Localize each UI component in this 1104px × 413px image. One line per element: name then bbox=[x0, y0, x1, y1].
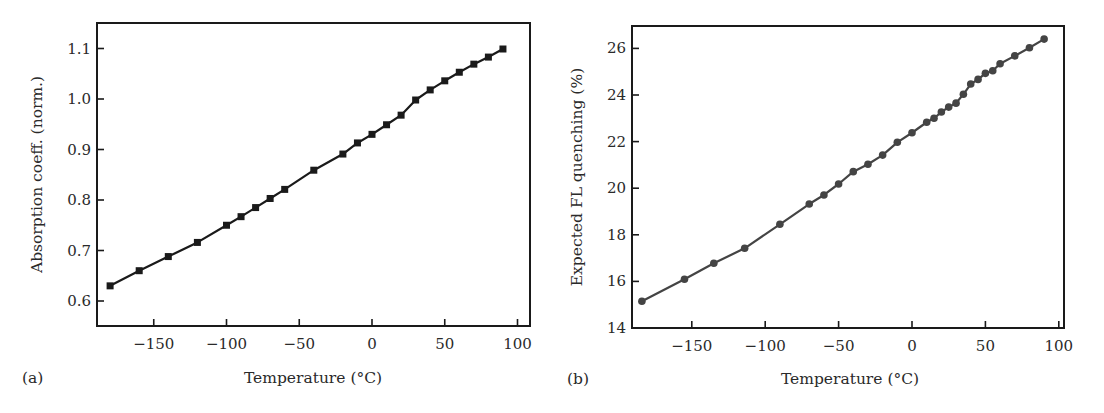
y-tick-label: 1.0 bbox=[67, 90, 91, 108]
x-tick-label: −100 bbox=[206, 335, 247, 353]
y-tick-label: 26 bbox=[607, 39, 626, 57]
circle-marker bbox=[945, 103, 953, 111]
circle-marker bbox=[930, 115, 938, 123]
y-tick-label: 20 bbox=[607, 179, 626, 197]
square-marker bbox=[194, 239, 201, 246]
circle-marker bbox=[894, 138, 902, 146]
circle-marker bbox=[879, 151, 887, 159]
square-marker bbox=[223, 222, 230, 229]
x-tick-label: −150 bbox=[133, 335, 174, 353]
y-tick-label: 14 bbox=[607, 319, 626, 337]
square-marker bbox=[427, 86, 434, 93]
y-tick-label: 0.8 bbox=[67, 191, 91, 209]
circle-marker bbox=[923, 118, 931, 126]
square-marker bbox=[485, 54, 492, 61]
data-line bbox=[642, 39, 1044, 301]
x-tick-label: 0 bbox=[907, 337, 917, 355]
circle-marker bbox=[996, 60, 1004, 68]
circle-marker bbox=[805, 200, 813, 208]
square-marker bbox=[354, 139, 361, 146]
square-marker bbox=[499, 46, 506, 53]
circle-marker bbox=[1011, 52, 1019, 60]
square-marker bbox=[456, 69, 463, 76]
panel-label: (a) bbox=[22, 369, 43, 387]
circle-marker bbox=[938, 108, 946, 116]
x-axis-title: Temperature (°C) bbox=[244, 369, 382, 387]
y-tick-label: 16 bbox=[607, 272, 626, 290]
square-marker bbox=[398, 112, 405, 119]
square-marker bbox=[107, 282, 114, 289]
y-tick-label: 22 bbox=[607, 133, 626, 151]
square-marker bbox=[238, 213, 245, 220]
x-tick-label: −100 bbox=[745, 337, 786, 355]
y-tick-label: 0.9 bbox=[67, 141, 91, 159]
y-tick-label: 18 bbox=[607, 226, 626, 244]
x-tick-label: 0 bbox=[367, 335, 377, 353]
circle-marker bbox=[710, 259, 718, 267]
chart-panel-b: −150−100−5005010014161820222426Temperatu… bbox=[567, 26, 1073, 388]
circle-marker bbox=[864, 160, 872, 168]
x-tick-label: 100 bbox=[503, 335, 532, 353]
x-tick-label: −50 bbox=[283, 335, 315, 353]
square-marker bbox=[470, 61, 477, 68]
x-tick-label: −50 bbox=[823, 337, 855, 355]
chart-panel-a: −150−100−500501000.60.70.80.91.01.1Tempe… bbox=[22, 23, 532, 387]
x-tick-label: 50 bbox=[435, 335, 454, 353]
y-tick-label: 24 bbox=[607, 86, 626, 104]
data-line bbox=[110, 49, 503, 286]
square-marker bbox=[267, 195, 274, 202]
panel-label: (b) bbox=[567, 370, 589, 388]
square-marker bbox=[339, 151, 346, 158]
circle-marker bbox=[1026, 44, 1034, 52]
square-marker bbox=[310, 167, 317, 174]
circle-marker bbox=[776, 221, 784, 229]
square-marker bbox=[252, 204, 259, 211]
circle-marker bbox=[908, 129, 916, 137]
circle-marker bbox=[681, 276, 689, 284]
square-marker bbox=[369, 131, 376, 138]
circle-marker bbox=[820, 191, 828, 199]
square-marker bbox=[165, 253, 172, 260]
square-marker bbox=[136, 267, 143, 274]
square-marker bbox=[412, 97, 419, 104]
circle-marker bbox=[741, 245, 749, 253]
square-marker bbox=[281, 186, 288, 193]
circle-marker bbox=[952, 99, 960, 107]
x-axis-title: Temperature (°C) bbox=[781, 370, 919, 388]
circle-marker bbox=[960, 91, 968, 99]
square-marker bbox=[383, 121, 390, 128]
x-tick-label: −150 bbox=[671, 337, 712, 355]
circle-marker bbox=[1040, 35, 1048, 43]
circle-marker bbox=[989, 67, 997, 75]
y-axis-title: Expected FL quenching (%) bbox=[568, 68, 586, 286]
y-axis-title: Absorption coeff. (norm.) bbox=[28, 76, 46, 274]
figure: −150−100−500501000.60.70.80.91.01.1Tempe… bbox=[0, 0, 1104, 413]
circle-marker bbox=[982, 70, 990, 78]
y-tick-label: 0.6 bbox=[67, 292, 91, 310]
y-tick-label: 1.1 bbox=[67, 40, 91, 58]
circle-marker bbox=[849, 168, 857, 176]
circle-marker bbox=[638, 297, 646, 305]
y-tick-label: 0.7 bbox=[67, 242, 91, 260]
circle-marker bbox=[974, 76, 982, 84]
x-tick-label: 100 bbox=[1044, 337, 1073, 355]
x-tick-label: 50 bbox=[976, 337, 995, 355]
circle-marker bbox=[835, 180, 843, 188]
square-marker bbox=[441, 77, 448, 84]
circle-marker bbox=[967, 80, 975, 88]
